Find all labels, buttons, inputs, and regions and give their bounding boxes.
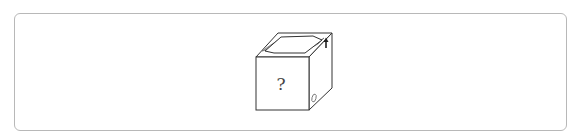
question-mark: ? [276,74,285,94]
cube-figure: ? [0,0,580,139]
